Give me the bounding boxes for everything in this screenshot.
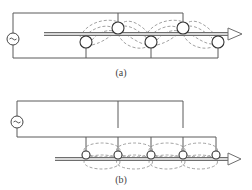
bottom-supply-wire (17, 128, 216, 137)
coil (179, 151, 187, 159)
panel-a-caption: (a) (115, 67, 126, 79)
bottom-supply-wire (13, 45, 218, 58)
rod (44, 28, 242, 40)
coil (147, 151, 155, 159)
top-supply-wire (17, 101, 183, 128)
panel-b-caption: (b) (115, 174, 127, 186)
coil (82, 151, 90, 159)
circuit-diagram: (a) (0, 0, 252, 190)
ac-source-icon (7, 33, 19, 45)
coil (114, 151, 122, 159)
panel-b: (b) (11, 101, 241, 186)
panel-a: (a) (7, 13, 242, 79)
lower-coil (145, 36, 157, 48)
direction-arrow-icon (228, 28, 242, 40)
upper-coil (112, 22, 124, 34)
ac-source-icon (11, 116, 23, 128)
upper-coil (177, 22, 189, 34)
lower-coil (212, 36, 224, 48)
coil (212, 151, 220, 159)
field-line (183, 34, 212, 48)
top-supply-wire (13, 13, 183, 33)
lower-coil (80, 36, 92, 48)
field-line (118, 34, 146, 48)
direction-arrow-icon (228, 153, 241, 165)
